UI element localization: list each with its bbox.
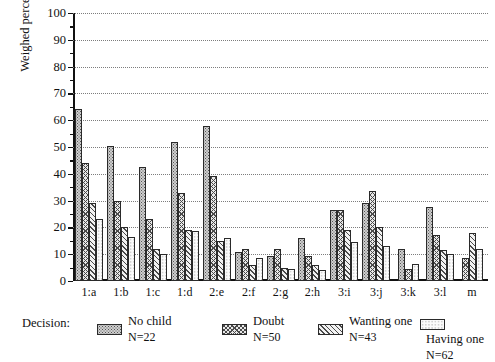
y-tick-mark <box>68 120 73 121</box>
legend-sample-size: N=62 <box>426 348 484 362</box>
y-tick-minor <box>70 107 74 108</box>
bar-group <box>203 13 231 281</box>
y-tick-mark <box>68 281 73 282</box>
x-tick-label: 1:c <box>145 285 160 300</box>
bar <box>128 237 135 281</box>
bar <box>139 167 146 281</box>
bar-group <box>298 13 326 281</box>
bar <box>114 201 121 281</box>
y-tick-mark <box>68 174 73 175</box>
bar <box>433 235 440 281</box>
y-tick-mark <box>68 227 73 228</box>
legend-label: DoubtN=50 <box>253 314 284 345</box>
bar-group <box>267 13 295 281</box>
x-tick-label: 2:e <box>209 285 224 300</box>
bar <box>351 242 358 281</box>
bar <box>305 256 312 281</box>
bar <box>267 256 274 281</box>
x-tick-label: 3:j <box>370 285 383 300</box>
bar <box>224 238 231 281</box>
y-tick-label: 40 <box>54 168 67 181</box>
y-tick-mark <box>68 201 73 202</box>
bar <box>405 269 412 281</box>
bar <box>256 258 263 281</box>
bar <box>383 246 390 281</box>
legend-swatch <box>222 324 247 335</box>
bar <box>96 219 103 281</box>
bar <box>160 254 167 281</box>
legend-label: Wanting oneN=43 <box>349 314 412 345</box>
x-tick-label: 3:l <box>434 285 447 300</box>
bar <box>217 241 224 281</box>
y-tick-mark <box>68 147 73 148</box>
bar <box>312 265 319 281</box>
bar <box>75 109 82 281</box>
x-tick-label: 1:d <box>177 285 192 300</box>
bar <box>281 268 288 281</box>
bar-group <box>75 13 103 281</box>
bar <box>426 207 433 281</box>
bar <box>107 146 114 281</box>
y-tick-minor <box>70 53 74 54</box>
bar-chart: Weighed percentage 010203040506070809010… <box>0 0 495 362</box>
bar <box>249 265 256 281</box>
bar-group <box>330 13 358 281</box>
y-tick-mark <box>68 67 73 68</box>
y-tick-minor <box>70 160 74 161</box>
bar <box>203 126 210 281</box>
legend-label: No childN=22 <box>128 314 171 345</box>
bar <box>298 238 305 281</box>
bar <box>121 227 128 281</box>
bar <box>476 249 483 281</box>
legend: Decision: No childN=22DoubtN=50Wanting o… <box>0 311 495 356</box>
x-tick-label: 2:f <box>242 285 255 300</box>
bar-group <box>462 13 483 281</box>
bar <box>178 193 185 281</box>
x-tick-label: 3:k <box>401 285 416 300</box>
bar <box>447 254 454 281</box>
bar-group <box>235 13 263 281</box>
y-tick-mark <box>68 13 73 14</box>
bar <box>337 210 344 281</box>
bar <box>412 264 419 281</box>
bar <box>210 176 217 281</box>
bar <box>82 163 89 281</box>
y-tick-label: 70 <box>54 87 67 100</box>
bar <box>235 252 242 281</box>
bar <box>469 233 476 281</box>
bar <box>171 142 178 281</box>
legend-swatch <box>420 319 445 330</box>
bar <box>319 270 326 281</box>
y-tick-minor <box>70 134 74 135</box>
bar <box>330 210 337 281</box>
bar-group <box>398 13 419 281</box>
legend-sample-size: N=43 <box>349 330 412 345</box>
bar-group <box>171 13 199 281</box>
plot-area: 0102030405060708090100 <box>73 13 488 281</box>
bar <box>288 269 295 281</box>
bar <box>369 191 376 281</box>
y-tick-minor <box>70 214 74 215</box>
legend-item: DoubtN=50 <box>222 314 284 345</box>
y-tick-minor <box>70 26 74 27</box>
legend-sample-size: N=22 <box>128 330 171 345</box>
x-tick-label: m <box>467 285 476 300</box>
bar <box>398 249 405 281</box>
bar <box>153 249 160 281</box>
y-tick-label: 10 <box>54 248 67 261</box>
bar <box>440 250 447 281</box>
legend-item: No childN=22 <box>97 314 171 345</box>
bar-group <box>139 13 167 281</box>
legend-sample-size: N=50 <box>253 330 284 345</box>
legend-item: Wanting oneN=43 <box>318 314 412 345</box>
bar <box>344 230 351 281</box>
bar <box>185 230 192 281</box>
y-tick-label: 20 <box>54 221 67 234</box>
x-tick-label: 3:i <box>338 285 351 300</box>
bar <box>89 203 96 281</box>
legend-swatch <box>97 324 122 335</box>
bar-group <box>426 13 454 281</box>
y-axis-label-text: Weighed percentage <box>18 0 33 96</box>
y-tick-minor <box>70 268 74 269</box>
y-tick-label: 100 <box>47 7 66 20</box>
